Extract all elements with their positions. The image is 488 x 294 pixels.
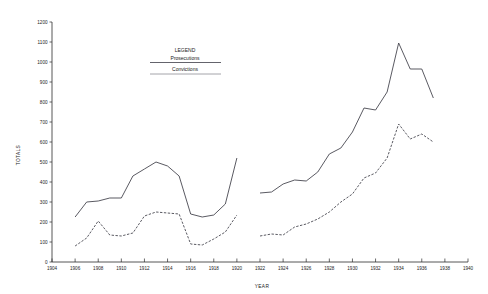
axes: 0100200300400500600700800900100011001200…	[37, 20, 473, 271]
x-tick-label: 1938	[440, 266, 451, 271]
x-tick-label: 1916	[186, 266, 197, 271]
line-chart: 0100200300400500600700800900100011001200…	[0, 0, 488, 294]
y-tick-label: 1200	[37, 20, 48, 25]
y-axis-ticks: 0100200300400500600700800900100011001200	[37, 20, 52, 265]
y-tick-label: 0	[45, 260, 48, 265]
y-tick-label: 700	[40, 120, 48, 125]
series-line-prosecutions	[260, 43, 433, 193]
y-tick-label: 1100	[38, 40, 48, 45]
x-tick-label: 1912	[139, 266, 150, 271]
y-tick-label: 400	[40, 180, 48, 185]
x-tick-label: 1904	[47, 266, 58, 271]
y-tick-label: 900	[40, 80, 48, 85]
series-line-prosecutions	[75, 158, 237, 217]
x-tick-label: 1936	[417, 266, 428, 271]
x-tick-label: 1930	[347, 266, 358, 271]
x-tick-label: 1908	[93, 266, 104, 271]
x-tick-label: 1918	[209, 266, 220, 271]
x-tick-label: 1910	[116, 266, 127, 271]
series-line-convictions	[260, 124, 433, 236]
y-tick-label: 500	[40, 160, 48, 165]
legend-title: LEGEND	[175, 47, 196, 53]
y-tick-label: 200	[40, 220, 48, 225]
legend-item-convictions: Convictions	[172, 66, 198, 72]
legend-item-prosecutions: Prosecutions	[171, 55, 200, 61]
x-tick-label: 1928	[324, 266, 335, 271]
y-tick-label: 1000	[37, 60, 48, 65]
y-tick-label: 600	[40, 140, 48, 145]
y-tick-label: 100	[40, 240, 48, 245]
x-tick-label: 1914	[162, 266, 173, 271]
y-tick-label: 800	[40, 100, 48, 105]
x-tick-label: 1922	[255, 266, 266, 271]
x-tick-label: 1932	[370, 266, 381, 271]
y-axis-title: TOTALS	[16, 145, 21, 165]
x-axis-title: YEAR	[255, 284, 270, 289]
legend: LEGEND Prosecutions Convictions	[150, 47, 221, 74]
chart-container: 0100200300400500600700800900100011001200…	[0, 0, 488, 294]
x-tick-label: 1940	[463, 266, 474, 271]
x-tick-label: 1926	[301, 266, 312, 271]
x-tick-label: 1906	[70, 266, 81, 271]
y-tick-label: 300	[40, 200, 48, 205]
x-axis-ticks: 1904190619081910191219141916191819201922…	[47, 259, 474, 272]
x-tick-label: 1920	[232, 266, 243, 271]
series-line-convictions	[75, 212, 237, 246]
x-tick-label: 1934	[394, 266, 405, 271]
data-series-group	[75, 43, 433, 246]
x-tick-label: 1924	[278, 266, 289, 271]
